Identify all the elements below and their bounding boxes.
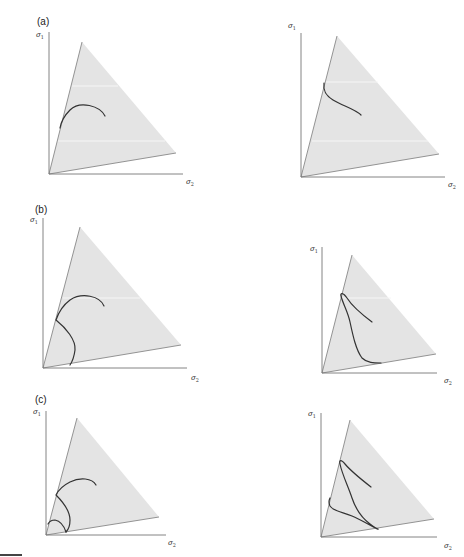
sigma1-label: σ1 — [30, 216, 38, 225]
sigma1-label: σ1 — [310, 245, 318, 254]
sigma2-label: σ2 — [186, 178, 194, 187]
sigma2-label: σ2 — [191, 374, 199, 383]
subplot-c-left: σ1 σ2 — [33, 408, 176, 548]
sigma1-label: σ1 — [288, 22, 296, 31]
subplot-b-left: σ1 σ2 — [30, 216, 199, 383]
sigma1-label: σ1 — [36, 31, 44, 40]
sigma2-label: σ2 — [444, 542, 452, 551]
sigma1-label: σ1 — [33, 408, 41, 417]
stress-triangle — [322, 255, 436, 373]
subplot-a-right: σ1 σ2 — [288, 22, 456, 190]
subplot-b-right: σ1 σ2 — [310, 245, 452, 386]
subplot-a-left: σ1 σ2 — [36, 31, 194, 187]
bottom-rule — [0, 554, 22, 556]
sigma2-label: σ2 — [448, 181, 456, 190]
figure: (a) σ1 σ2 σ1 σ2 (b) σ1 σ2 — [0, 0, 464, 557]
stress-triangle — [301, 36, 439, 177]
stress-triangle — [49, 42, 176, 174]
sigma2-label: σ2 — [168, 539, 176, 548]
sigma2-label: σ2 — [444, 377, 452, 386]
stress-triangle — [46, 418, 159, 535]
panel-label-c: (c) — [35, 394, 47, 405]
subplot-c-right: σ1 σ2 — [308, 410, 452, 551]
panel-label-a: (a) — [37, 16, 49, 27]
panel-label-b: (b) — [35, 204, 47, 215]
stress-triangle — [321, 420, 434, 537]
sigma1-label: σ1 — [308, 410, 316, 419]
